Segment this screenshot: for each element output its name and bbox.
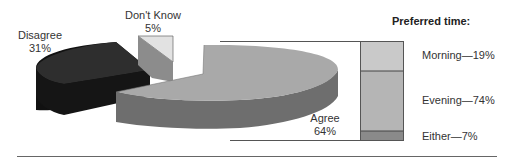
legend-morning: Morning—19% (422, 49, 495, 61)
bar-title: Preferred time: (392, 15, 470, 27)
bar-segment-either (360, 131, 404, 141)
label-dont-know-pct: 5% (118, 22, 188, 35)
stacked-bar (360, 41, 404, 141)
label-disagree: Disagree 31% (10, 29, 70, 55)
bar-segment-evening (360, 71, 404, 131)
label-disagree-name: Disagree (10, 29, 70, 42)
label-disagree-pct: 31% (10, 42, 70, 55)
label-dont-know: Don't Know 5% (118, 9, 188, 35)
label-agree: Agree 64% (305, 112, 345, 138)
legend-either: Either—7% (422, 130, 478, 142)
bar-segment-morning (360, 41, 404, 71)
label-agree-name: Agree (305, 112, 345, 125)
label-dont-know-name: Don't Know (118, 9, 188, 22)
legend-evening: Evening—74% (422, 94, 495, 106)
label-agree-pct: 64% (305, 125, 345, 138)
